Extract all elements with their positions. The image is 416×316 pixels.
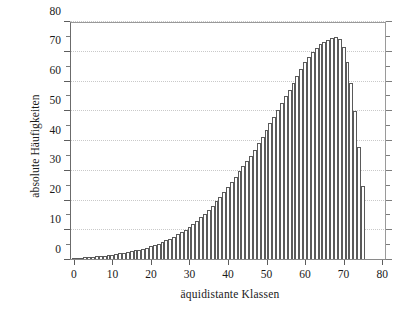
y-tick-major-right [386, 110, 392, 111]
y-tick-minor-right [386, 185, 390, 186]
y-tick-minor-right [386, 244, 390, 245]
x-tick-label: 0 [71, 268, 77, 280]
y-tick-major [64, 51, 70, 52]
plot-area: 01020304050607080 01020304050607080 [70, 22, 386, 260]
y-tick-major-right [386, 170, 392, 171]
x-tick-major [74, 260, 75, 265]
x-tick-label: 20 [145, 268, 157, 280]
y-tick-label: 70 [50, 34, 62, 46]
y-tick-minor [66, 36, 70, 37]
y-tick-label: 20 [50, 183, 62, 195]
y-tick-minor [66, 95, 70, 96]
y-tick-minor [66, 155, 70, 156]
y-tick-minor-right [386, 36, 390, 37]
x-tick-label: 30 [184, 268, 196, 280]
y-tick-minor-right [386, 155, 390, 156]
y-tick-label: 40 [50, 124, 62, 136]
y-tick-label: 10 [50, 213, 62, 225]
y-tick-label: 80 [50, 5, 62, 17]
y-axis-title: absolute Häufigkeiten [29, 51, 41, 241]
x-tick-major [305, 260, 306, 265]
y-tick-minor [66, 214, 70, 215]
y-tick-major-right [386, 140, 392, 141]
y-tick-minor-right [386, 125, 390, 126]
histogram-bar [361, 186, 365, 260]
y-tick-major [64, 140, 70, 141]
histogram-figure: absolute Häufigkeiten 01020304050607080 … [0, 0, 416, 316]
x-axis-title: äquidistante Klassen [70, 288, 390, 300]
x-tick-label: 80 [376, 268, 388, 280]
y-tick-major-right [386, 81, 392, 82]
x-tick-major [382, 260, 383, 265]
y-tick-major [64, 170, 70, 171]
y-tick-major-right [386, 259, 392, 260]
y-tick-label: 50 [50, 94, 62, 106]
x-tick-label: 70 [338, 268, 350, 280]
y-tick-minor [66, 185, 70, 186]
y-tick-major-right [386, 229, 392, 230]
y-tick-minor [66, 125, 70, 126]
y-tick-major-right [386, 51, 392, 52]
x-tick-major [112, 260, 113, 265]
x-tick-major [228, 260, 229, 265]
y-tick-label: 30 [50, 153, 62, 165]
x-tick-label: 60 [299, 268, 311, 280]
y-tick-minor-right [386, 66, 390, 67]
y-tick-major [64, 229, 70, 230]
y-tick-major-right [386, 200, 392, 201]
x-tick-major [189, 260, 190, 265]
x-tick-label: 50 [261, 268, 273, 280]
x-tick-label: 40 [222, 268, 234, 280]
y-tick-label: 60 [50, 64, 62, 76]
y-tick-major [64, 21, 70, 22]
y-tick-major [64, 81, 70, 82]
y-tick-major [64, 259, 70, 260]
x-tick-label: 10 [107, 268, 119, 280]
y-tick-major-right [386, 21, 392, 22]
y-tick-major [64, 110, 70, 111]
y-tick-label: 0 [55, 243, 61, 255]
x-tick-major [267, 260, 268, 265]
y-tick-minor [66, 244, 70, 245]
y-tick-minor-right [386, 95, 390, 96]
y-tick-minor-right [386, 214, 390, 215]
x-tick-major [151, 260, 152, 265]
y-tick-minor [66, 66, 70, 67]
histogram-bars [70, 22, 386, 260]
y-tick-major [64, 200, 70, 201]
x-tick-major [344, 260, 345, 265]
